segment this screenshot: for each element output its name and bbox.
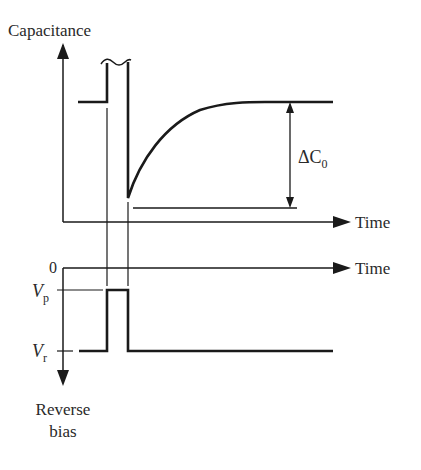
capacitance-time-label: Time xyxy=(355,213,390,232)
capacitance-y-axis-arrow-icon xyxy=(57,43,69,59)
capacitance-pre-pulse-trace xyxy=(78,63,107,102)
capacitance-panel: Capacitance Time ΔC0 xyxy=(8,21,390,232)
capacitance-transient-trace xyxy=(128,62,333,198)
pulse-guide-lines xyxy=(107,108,128,286)
dlts-diagram: Capacitance Time ΔC0 0 Time xyxy=(0,0,421,470)
bias-time-axis-arrow-icon xyxy=(333,262,351,274)
bias-time-label: Time xyxy=(355,259,390,278)
vr-label: Vr xyxy=(32,341,47,365)
zero-bias-label: 0 xyxy=(49,259,57,276)
delta-c0-label: ΔC0 xyxy=(298,147,328,171)
vp-label: Vp xyxy=(32,281,49,305)
reverse-bias-label-line1: Reverse xyxy=(36,400,91,419)
delta-c-arrow-down-icon xyxy=(286,197,294,208)
capacitance-time-axis-arrow-icon xyxy=(333,216,351,228)
delta-c-arrow-up-icon xyxy=(286,102,294,113)
bias-pulse-trace xyxy=(79,290,333,351)
reverse-bias-label-line2: bias xyxy=(49,422,76,441)
capacitance-axis-label: Capacitance xyxy=(8,21,91,40)
axis-break-icon xyxy=(101,59,131,65)
reverse-bias-axis-arrow-icon xyxy=(57,370,69,386)
bias-panel: 0 Time Vp Vr Reverse bias xyxy=(32,259,390,441)
